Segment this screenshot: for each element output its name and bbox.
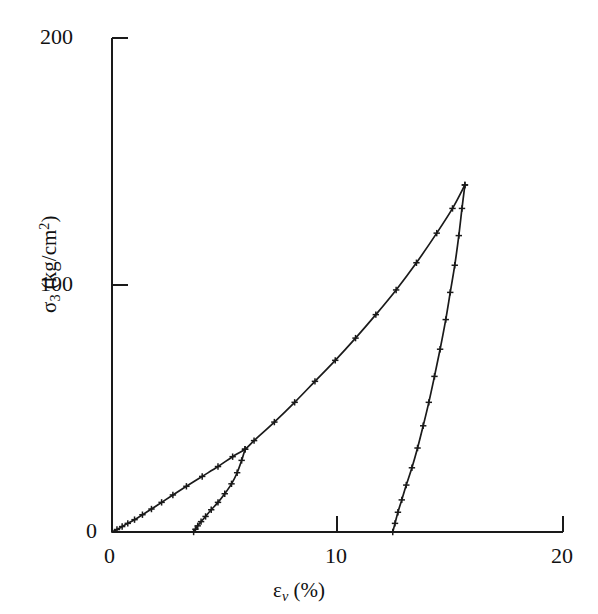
data-point-marker [390,529,396,535]
data-point-marker [426,399,432,405]
y-axis-unit-close: ) [37,216,61,223]
data-point-marker [459,205,465,211]
x-tick-label-0: 0 [104,545,115,567]
x-axis-symbol: ε [273,578,282,602]
y-axis-unit-open: (kg/cm [37,230,61,295]
data-point-marker [443,316,449,322]
y-axis-title: σ3 (kg/cm2) [36,154,64,374]
series-1 [112,182,468,533]
data-point-marker [238,457,244,463]
data-point-marker [414,445,420,451]
data-point-marker [409,465,415,471]
axis-lines [112,38,563,532]
data-point-marker [392,520,398,526]
data-point-marker [399,497,405,503]
y-tick-label-200: 200 [40,26,73,48]
data-point-marker [452,262,458,268]
data-series-layer [112,182,468,535]
x-axis-ticks [337,516,563,532]
data-point-marker [447,289,453,295]
y-axis-ticks [112,38,128,285]
data-point-marker [456,232,462,238]
x-axis-unit: (%) [288,578,325,602]
series-2 [190,446,248,535]
y-axis-symbol: σ [37,302,61,313]
series-line [112,185,465,532]
y-axis-unit-exponent: 2 [36,223,52,230]
y-tick-label-0: 0 [86,520,97,542]
data-point-marker [395,509,401,515]
series-line [393,185,465,532]
data-point-marker [234,470,240,476]
data-point-marker [431,373,437,379]
x-tick-label-10: 10 [325,545,347,567]
chart-figure: 200 100 0 0 10 20 σ3 (kg/cm2) εv (%) [0,0,598,614]
data-point-marker [403,482,409,488]
data-point-marker [462,182,468,188]
data-point-marker [420,423,426,429]
x-tick-label-20: 20 [551,545,573,567]
y-axis-subscript: 3 [47,294,63,301]
data-point-marker [437,346,443,352]
series-3 [390,182,469,535]
x-axis-title: εv (%) [0,578,598,605]
